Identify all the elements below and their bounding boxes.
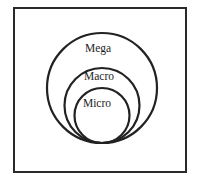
label-mega: Mega — [85, 42, 111, 55]
label-micro: Micro — [83, 97, 111, 109]
nested-circles-diagram: Mega Macro Micro — [0, 0, 203, 184]
label-macro: Macro — [84, 70, 114, 82]
